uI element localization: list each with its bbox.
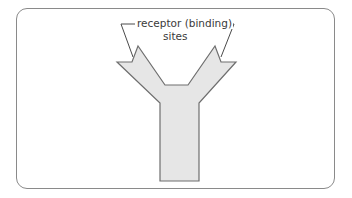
receptor-label: receptor (binding) bbox=[136, 17, 233, 29]
callout-left bbox=[121, 24, 135, 57]
sites-label: sites bbox=[162, 30, 188, 42]
antibody-y-shape bbox=[117, 46, 236, 181]
